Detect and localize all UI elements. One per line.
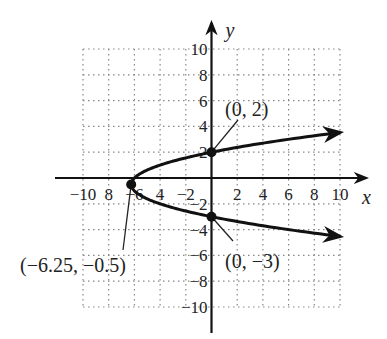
- x-tick-label: 2: [233, 185, 242, 204]
- y-tick-label: 6: [199, 92, 208, 111]
- curve-upper-branch: [131, 132, 340, 184]
- parabola-chart: xy −108−64−2246810108642−2−4−6−8−10 (0, …: [0, 0, 387, 339]
- y-tick-label: −2: [189, 195, 207, 214]
- x-tick-label: 8: [310, 185, 319, 204]
- y-tick-label: 4: [199, 117, 208, 136]
- y-tick-label: −6: [189, 246, 207, 265]
- x-tick-label: 8: [104, 185, 113, 204]
- y-tick-label: 8: [199, 66, 208, 85]
- y-tick-label: −4: [189, 221, 208, 240]
- y-tick-label: −8: [189, 272, 207, 291]
- y-tick-label: −10: [181, 298, 208, 317]
- point-marker: [207, 212, 217, 222]
- x-tick-label: 6: [284, 185, 293, 204]
- y-axis-label: y: [224, 19, 235, 42]
- point-label: (0, −3): [225, 250, 280, 273]
- x-tick-label: 10: [332, 185, 349, 204]
- x-tick-label: −10: [70, 185, 97, 204]
- point-marker: [126, 179, 136, 189]
- x-tick-label: 4: [156, 185, 165, 204]
- y-tick-label: 10: [191, 40, 208, 59]
- axes: xy: [55, 19, 371, 333]
- x-tick-label: 4: [259, 185, 268, 204]
- point-label: (0, 2): [225, 98, 268, 121]
- point-label: (−6.25, −0.5): [20, 254, 126, 277]
- x-axis-label: x: [361, 186, 371, 208]
- point-marker: [207, 147, 217, 157]
